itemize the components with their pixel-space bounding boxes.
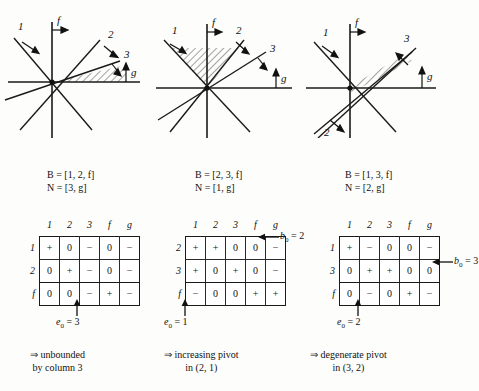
row-header-f: f (319, 282, 340, 305)
row-header-1: 2 (19, 259, 40, 282)
row-header-f: f (19, 282, 40, 305)
cell-r0cf: 0 (400, 236, 420, 259)
shaded-cone-region (171, 48, 240, 88)
cell-r0c2: − (80, 236, 100, 259)
conclusion-line2: in (3, 2) (310, 361, 387, 374)
cell-r1c1: 0 (206, 259, 226, 282)
cell-rfcg: + (266, 282, 286, 305)
b0-value: = 3 (465, 255, 478, 266)
ray-line-1 (314, 42, 396, 132)
conclusion-line2: in (2, 1) (164, 361, 239, 374)
axis-label-g: g (427, 70, 433, 82)
cell-rfcf: + (400, 282, 420, 305)
set-definition-basis-3: B = [1, 3, f] (345, 168, 392, 182)
cell-r1c0: 0 (40, 259, 60, 282)
col-header-2: 2 (60, 214, 80, 236)
cell-r1c2: − (80, 259, 100, 282)
set-definition-basis-1: B = [1, 2, f] (47, 168, 94, 182)
sign-table-1-wrapper: 1 2 3 f g 1 + 0 − 0 − 2 0 + − 0 − (19, 214, 140, 306)
panel-increasing-pivot: 1 2 3 f g B = [2, 3, f] N = [1, g] 1 2 3… (150, 0, 305, 391)
cell-rfcg: − (120, 282, 140, 305)
table-corner (19, 214, 40, 236)
cell-r0c1: + (206, 236, 226, 259)
cell-r1cf: 0 (100, 259, 120, 282)
cell-r1cg: − (120, 259, 140, 282)
cell-r1c2: + (226, 259, 246, 282)
conclusion-line2: by column 3 (30, 361, 85, 374)
origin-dot (347, 85, 352, 90)
table-row: 2 0 + − 0 − (19, 259, 140, 282)
cell-r0cg: − (120, 236, 140, 259)
ray-label-2: 2 (108, 28, 114, 40)
table-corner (319, 214, 340, 236)
conclusion-arrow: ⇒ (310, 349, 318, 360)
cell-r1cg: − (266, 259, 286, 282)
col-header-1: 1 (186, 214, 206, 236)
e0-label-3: e0 = 2 (337, 316, 361, 330)
e0-subscript: 0 (341, 322, 345, 330)
cell-r1cf: 0 (246, 259, 266, 282)
e0-value: = 3 (66, 316, 79, 327)
cell-r0cf: 0 (100, 236, 120, 259)
cell-rfc0: 0 (40, 282, 60, 305)
cell-rfcg: − (420, 282, 440, 305)
cell-r0c0: + (40, 236, 60, 259)
conclusion-2: ⇒ increasing pivot in (2, 1) (164, 348, 239, 374)
cell-rfc2: 0 (226, 282, 246, 305)
e0-label-2: e0 = 1 (164, 316, 188, 330)
col-header-g: g (120, 214, 140, 236)
col-header-3: 3 (226, 214, 246, 236)
conclusion-line1: increasing pivot (175, 349, 239, 360)
cone-diagram-3: 1 2 3 f g (300, 8, 479, 138)
conclusion-1: ⇒ unbounded by column 3 (30, 348, 85, 374)
col-header-f: f (100, 214, 120, 236)
set-definition-nonbasis-2: N = [1, g] (195, 181, 235, 195)
origin-dot (49, 79, 54, 84)
conclusion-arrow: ⇒ (164, 349, 172, 360)
b0-subscript: 0 (285, 236, 289, 244)
origin-dot (204, 85, 209, 90)
e0-value: = 2 (347, 316, 360, 327)
panel-unbounded: 1 2 3 f g B = [1, 2, f] N = [3, g] 1 2 3… (0, 0, 155, 391)
col-header-1: 1 (340, 214, 360, 236)
ray-label-3: 3 (403, 32, 410, 44)
sign-table-3: 1 2 3 f g 1 + − 0 0 − 3 0 + + 0 0 (319, 214, 440, 306)
sign-table-2-wrapper: 1 2 3 f g 2 + + 0 0 − 3 + 0 + 0 − (165, 214, 286, 306)
conclusion-line1: unbounded (41, 349, 85, 360)
axis-label-f: f (355, 16, 360, 28)
axis-label-f: f (212, 16, 217, 28)
table-row: 1 + 0 − 0 − (19, 236, 140, 259)
ray-label-2: 2 (324, 126, 330, 138)
conclusion-3: ⇒ degenerate pivot in (3, 2) (310, 348, 387, 374)
ray-label-2: 2 (236, 24, 242, 36)
table-row: 3 + 0 + 0 − (165, 259, 286, 282)
cell-r0c1: − (360, 236, 380, 259)
table-header-row: 1 2 3 f g (19, 214, 140, 236)
row-header-1: 3 (319, 259, 340, 282)
e0-value: = 1 (174, 316, 187, 327)
cell-r1c0: + (186, 259, 206, 282)
row-header-1: 3 (165, 259, 186, 282)
col-header-3: 3 (80, 214, 100, 236)
table-row: 1 + − 0 0 − (319, 236, 440, 259)
cell-r0c2: 0 (380, 236, 400, 259)
ray-label-3: 3 (269, 42, 276, 54)
cone-diagram-1: 1 2 3 f g (0, 8, 155, 138)
row-header-0: 2 (165, 236, 186, 259)
table-row-objective: f 0 − 0 + − (319, 282, 440, 305)
col-header-f: f (400, 214, 420, 236)
e0-label-1: e0 = 3 (56, 316, 80, 330)
conclusion-arrow: ⇒ (30, 349, 38, 360)
ray-line-2 (20, 40, 100, 130)
set-definition-nonbasis-1: N = [3, g] (47, 181, 87, 195)
set-definition-nonbasis-3: N = [2, g] (345, 181, 385, 195)
axis-label-g: g (131, 66, 137, 78)
table-corner (165, 214, 186, 236)
ray-line-3 (314, 52, 412, 134)
panel-degenerate-pivot: 1 2 3 f g B = [1, 3, f] N = [2, g] 1 2 3… (300, 0, 479, 391)
axis-label-g: g (281, 72, 287, 84)
ray-label-1: 1 (18, 20, 24, 32)
cell-r1c1: + (60, 259, 80, 282)
col-header-2: 2 (206, 214, 226, 236)
cell-r1cf: 0 (400, 259, 420, 282)
